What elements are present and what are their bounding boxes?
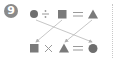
multiply-icon [45,45,52,52]
arrows [36,20,92,42]
equation-diagram [0,0,118,61]
arrow-circle [36,20,92,42]
circle-icon [30,10,38,18]
equals-icon [73,12,83,17]
square-icon [58,10,67,19]
dotted-divider [112,4,113,58]
bottom-equation [30,44,98,54]
equals-icon [73,46,83,51]
triangle-icon [59,44,69,53]
triangle-icon [88,10,98,19]
circle-icon [89,44,98,53]
square-icon [30,44,39,53]
arrow-square [36,20,62,42]
top-equation [30,10,98,19]
divide-icon [42,10,49,18]
arrow-triangle [65,20,92,42]
